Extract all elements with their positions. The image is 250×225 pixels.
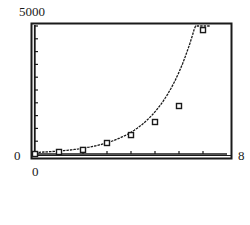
x-axis [35, 151, 227, 154]
data-points [33, 28, 206, 157]
data-point-marker [129, 133, 134, 138]
y-min-label: 0 [14, 149, 21, 162]
data-point-marker [57, 149, 62, 154]
x-max-label: 8 [238, 149, 245, 162]
fit-curve [35, 26, 210, 153]
data-point-marker [105, 140, 110, 145]
data-point-marker [153, 120, 158, 125]
data-point-marker [201, 28, 206, 33]
data-point-marker [81, 147, 86, 152]
data-point-marker [33, 152, 38, 157]
data-point-marker [177, 104, 182, 109]
x-min-label: 0 [32, 165, 39, 178]
y-axis [35, 25, 38, 154]
y-max-label: 5000 [19, 5, 45, 18]
chart-canvas [0, 0, 250, 225]
